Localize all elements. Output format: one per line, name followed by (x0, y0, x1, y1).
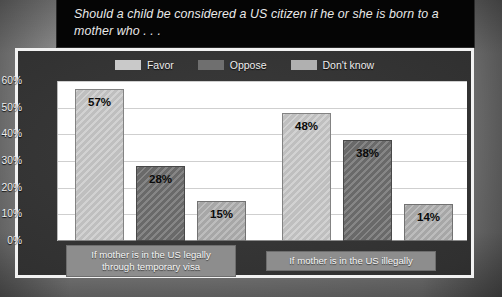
y-tick-0: 0% (0, 235, 22, 246)
category-label-group2: If mother is in the US illegally (266, 251, 436, 271)
chart-legend: Favor Oppose Don't know (18, 57, 471, 72)
category-label-group1-line1: If mother is in the US legally (71, 249, 231, 261)
category-label-group1: If mother is in the US legally through t… (66, 245, 236, 277)
question-title: Should a child be considered a US citize… (74, 6, 466, 39)
legend-swatch-favor (115, 60, 141, 70)
y-axis: 60% 50% 40% 30% 20% 10% 0% (18, 81, 466, 241)
legend-item-favor: Favor (115, 59, 174, 71)
screenshot-stage: Should a child be considered a US citize… (0, 0, 502, 297)
legend-label-dont-know: Don't know (323, 59, 375, 71)
y-tick-20: 20% (0, 182, 22, 193)
category-label-group2-line1: If mother is in the US illegally (271, 255, 431, 267)
y-tick-30: 30% (0, 155, 22, 166)
y-tick-40: 40% (0, 128, 22, 139)
question-banner: Should a child be considered a US citize… (57, 0, 474, 47)
legend-label-favor: Favor (147, 59, 174, 71)
legend-swatch-oppose (198, 60, 224, 70)
y-tick-60: 60% (0, 75, 22, 86)
chart-panel: Favor Oppose Don't know 60% 50% 40% 30% … (15, 48, 474, 278)
legend-label-oppose: Oppose (230, 59, 267, 71)
y-tick-10: 10% (0, 208, 22, 219)
y-tick-50: 50% (0, 102, 22, 113)
legend-item-dont-know: Don't know (291, 59, 375, 71)
legend-item-oppose: Oppose (198, 59, 267, 71)
category-label-group1-line2: through temporary visa (71, 261, 231, 273)
legend-swatch-dont-know (291, 60, 317, 70)
